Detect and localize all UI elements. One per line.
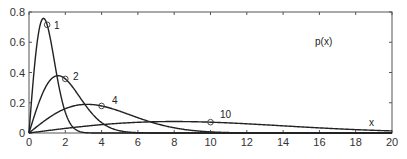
curve-label: 4 [112, 95, 118, 106]
curve-label: 2 [73, 71, 79, 82]
x-tick-label: 14 [277, 136, 289, 148]
chart: 0246810121416182000.20.40.60.8 12410 p(x… [0, 0, 407, 159]
x-tick-label: 10 [204, 136, 216, 148]
plot-frame [29, 12, 392, 133]
axis-ticks: 0246810121416182000.20.40.60.8 [10, 6, 398, 148]
y-tick-label: 0 [19, 127, 25, 139]
curve-label: 1 [54, 20, 60, 31]
x-tick-label: 8 [171, 136, 177, 148]
x-tick-label: 16 [313, 136, 325, 148]
y-tick-label: 0.8 [10, 6, 25, 18]
curve-label: 10 [220, 109, 232, 120]
x-axis-label: x [369, 117, 374, 128]
x-tick-label: 12 [241, 136, 253, 148]
curves: 12410 [29, 18, 392, 133]
x-tick-label: 0 [26, 136, 32, 148]
x-tick-label: 6 [135, 136, 141, 148]
x-tick-label: 20 [386, 136, 398, 148]
y-tick-label: 0.2 [10, 97, 25, 109]
x-tick-label: 18 [350, 136, 362, 148]
y-axis-label: p(x) [315, 36, 332, 47]
x-tick-label: 2 [62, 136, 68, 148]
curve-1 [29, 18, 392, 133]
y-tick-label: 0.4 [10, 67, 25, 79]
y-tick-label: 0.6 [10, 36, 25, 48]
x-tick-label: 4 [99, 136, 105, 148]
